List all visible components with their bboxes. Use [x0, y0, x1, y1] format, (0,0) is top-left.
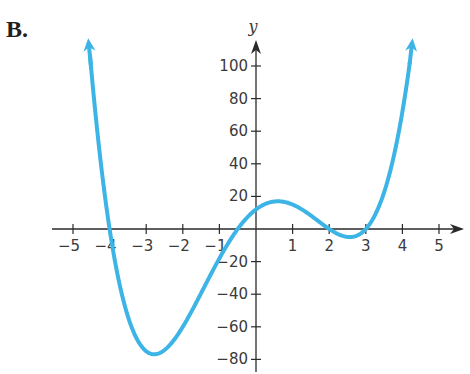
polynomial-graph: y −5−4−3−2−11234510080604020−20−40−60−80 — [0, 0, 470, 374]
x-tick-label: 5 — [434, 237, 444, 255]
y-tick-label: −80 — [216, 350, 248, 368]
curve-arrow-right — [410, 44, 412, 64]
y-tick-label: 60 — [229, 122, 248, 140]
y-tick-label: 40 — [229, 155, 248, 173]
y-tick-label: 20 — [229, 187, 248, 205]
x-tick-label: −5 — [58, 237, 80, 255]
axes: y — [52, 17, 462, 372]
y-tick-label: 80 — [229, 90, 248, 108]
x-tick-label: −2 — [168, 237, 190, 255]
x-tick-label: 1 — [288, 237, 298, 255]
y-tick-label: −40 — [216, 285, 248, 303]
curve-path — [90, 56, 410, 354]
y-tick-label: 100 — [219, 57, 248, 75]
x-tick-label: −3 — [131, 237, 153, 255]
x-tick-label: 2 — [324, 237, 334, 255]
x-tick-label: 4 — [398, 237, 408, 255]
y-axis-label: y — [247, 17, 258, 36]
y-tick-label: −60 — [216, 318, 248, 336]
function-curve — [89, 44, 412, 354]
x-tick-label: 3 — [361, 237, 371, 255]
curve-arrow-left — [89, 44, 91, 68]
